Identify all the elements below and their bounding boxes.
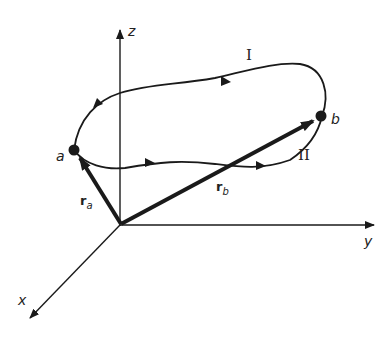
arrow-path-II-right xyxy=(256,161,266,170)
path-II xyxy=(74,116,322,168)
arrow-path-I-left xyxy=(93,98,103,108)
arrow-path-I-right xyxy=(221,76,231,86)
arrow-path-II-left xyxy=(145,158,155,167)
vector-rb-sub: b xyxy=(222,186,228,197)
point-b xyxy=(316,111,327,122)
point-b-label: b xyxy=(331,112,340,126)
path-I xyxy=(74,64,326,150)
path-I-label: I xyxy=(246,48,252,63)
vector-rb-label: rb xyxy=(216,180,229,197)
x-axis xyxy=(30,225,120,318)
vector-ra-sub: a xyxy=(86,200,92,211)
path-diagram xyxy=(0,0,392,358)
z-axis-label: z xyxy=(128,24,135,38)
vector-ra-label: ra xyxy=(80,194,93,211)
vector-rb xyxy=(121,121,313,224)
point-a xyxy=(69,145,80,156)
x-axis-label: x xyxy=(18,293,26,307)
point-a-label: a xyxy=(56,149,65,163)
y-axis-label: y xyxy=(364,234,372,248)
path-II-label: II xyxy=(298,148,310,163)
